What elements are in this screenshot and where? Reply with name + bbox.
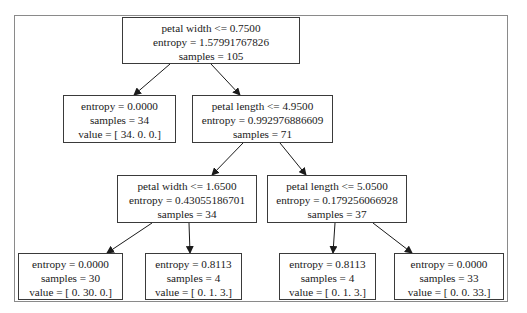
node-leaf-1: entropy = 0.0000 samples = 30 value = [ … [18, 253, 123, 300]
node-level1-left: entropy = 0.0000 samples = 34 value = [ … [63, 95, 176, 143]
node-entropy: entropy = 0.179256066928 [268, 193, 406, 207]
node-samples: samples = 34 [118, 207, 256, 221]
node-split: petal length <= 4.9500 [193, 99, 332, 113]
node-entropy: entropy = 0.8113 [146, 257, 241, 271]
edge-n2-right-leaf3 [333, 223, 335, 253]
node-entropy: entropy = 1.57991767826 [123, 35, 299, 49]
edge-n2-left-leaf2 [189, 223, 190, 253]
node-value: value = [ 0. 1. 3.] [280, 285, 375, 299]
node-value: value = [ 0. 0. 33.] [395, 285, 503, 299]
node-leaf-4: entropy = 0.0000 samples = 33 value = [ … [394, 253, 504, 300]
node-entropy: entropy = 0.0000 [395, 257, 503, 271]
node-split: petal width <= 0.7500 [123, 21, 299, 35]
node-samples: samples = 4 [280, 271, 375, 285]
node-level2-left: petal width <= 1.6500 entropy = 0.430551… [117, 175, 257, 223]
edge-n1-right-n2-left [212, 143, 243, 175]
node-samples: samples = 37 [268, 207, 406, 221]
node-split: petal length <= 5.0500 [268, 179, 406, 193]
node-samples: samples = 4 [146, 271, 241, 285]
node-samples: samples = 30 [19, 271, 122, 285]
node-entropy: entropy = 0.43055186701 [118, 193, 256, 207]
node-entropy: entropy = 0.0000 [19, 257, 122, 271]
edge-root-n1-right [211, 64, 240, 95]
node-leaf-2: entropy = 0.8113 samples = 4 value = [ 0… [145, 253, 242, 300]
node-entropy: entropy = 0.0000 [64, 99, 175, 113]
edge-n1-right-n2-right [280, 143, 306, 175]
edge-root-n1-left [134, 64, 170, 95]
node-samples: samples = 71 [193, 127, 332, 141]
node-entropy: entropy = 0.992976886609 [193, 113, 332, 127]
node-split: petal width <= 1.6500 [118, 179, 256, 193]
node-samples: samples = 105 [123, 49, 299, 63]
node-value: value = [ 34. 0. 0.] [64, 127, 175, 141]
node-leaf-3: entropy = 0.8113 samples = 4 value = [ 0… [279, 253, 376, 300]
node-entropy: entropy = 0.8113 [280, 257, 375, 271]
node-samples: samples = 34 [64, 113, 175, 127]
edge-n2-left-leaf1 [107, 223, 152, 253]
node-level2-right: petal length <= 5.0500 entropy = 0.17925… [267, 175, 407, 223]
node-root: petal width <= 0.7500 entropy = 1.579917… [122, 17, 300, 64]
edge-n2-right-leaf4 [373, 223, 412, 253]
node-value: value = [ 0. 30. 0.] [19, 285, 122, 299]
node-level1-right: petal length <= 4.9500 entropy = 0.99297… [192, 95, 333, 143]
node-samples: samples = 33 [395, 271, 503, 285]
node-value: value = [ 0. 1. 3.] [146, 285, 241, 299]
